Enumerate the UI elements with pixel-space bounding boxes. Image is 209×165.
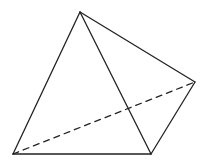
tetrahedron-diagram	[0, 0, 209, 165]
edge-top-left	[13, 12, 80, 154]
edge-left-right-hidden	[13, 82, 195, 154]
edge-bottom-right	[151, 82, 195, 154]
